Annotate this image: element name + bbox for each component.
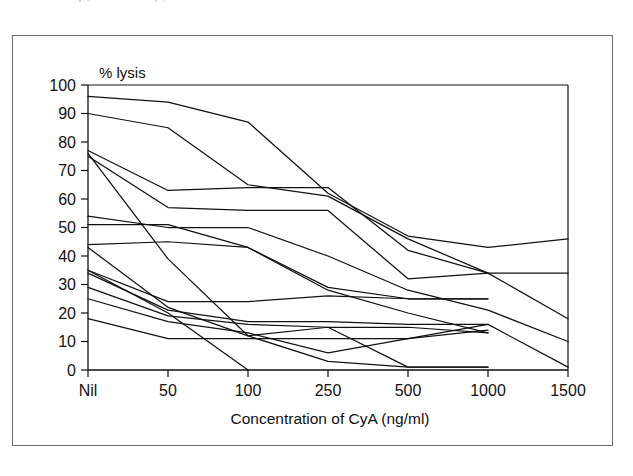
y-axis-tick-label: 20 — [58, 305, 76, 322]
x-axis-tick-labels: Nil5010025050010001500 — [79, 382, 586, 399]
x-axis-title: Concentration of CyA (ng/ml) — [230, 410, 429, 427]
chart-line-curve-5 — [88, 216, 568, 341]
chart-series-group — [88, 96, 568, 370]
chart-plot-area: 0102030405060708090100 Nil50100250500100… — [0, 0, 633, 476]
x-axis-tick-label: 100 — [235, 382, 262, 399]
y-axis-tick-label: 70 — [58, 162, 76, 179]
y-axis-tick-label: 50 — [58, 219, 76, 236]
x-axis-tick-label: Nil — [79, 382, 98, 399]
chart-line-curve-4 — [88, 156, 488, 279]
x-axis-tick-label: 50 — [159, 382, 177, 399]
x-axis-tick-label: 500 — [395, 382, 422, 399]
y-axis-tick-label: 0 — [67, 362, 76, 379]
y-axis-caption: % lysis — [99, 64, 146, 81]
chart-line-curve-6 — [88, 225, 488, 299]
y-axis-tick-label: 10 — [58, 333, 76, 350]
x-axis-tick-label: 1500 — [550, 382, 586, 399]
y-axis-tick-label: 30 — [58, 276, 76, 293]
x-axis-ticks — [88, 370, 568, 377]
y-axis-tick-label: 100 — [49, 77, 76, 94]
chart-line-curve-3 — [88, 151, 568, 319]
chart-line-curve-15 — [88, 270, 248, 370]
line-chart-svg: 0102030405060708090100 Nil50100250500100… — [0, 0, 633, 476]
y-axis-tick-label: 40 — [58, 248, 76, 265]
figure-root: 0102030405060708090100 Nil50100250500100… — [0, 0, 633, 476]
y-axis-tick-labels: 0102030405060708090100 — [49, 77, 76, 379]
chart-line-curve-8 — [88, 270, 488, 301]
y-axis-tick-label: 60 — [58, 191, 76, 208]
y-axis-tick-label: 80 — [58, 134, 76, 151]
x-axis-tick-label: 1000 — [470, 382, 506, 399]
y-axis-tick-label: 90 — [58, 105, 76, 122]
y-axis-ticks — [81, 85, 88, 370]
x-axis-tick-label: 250 — [315, 382, 342, 399]
